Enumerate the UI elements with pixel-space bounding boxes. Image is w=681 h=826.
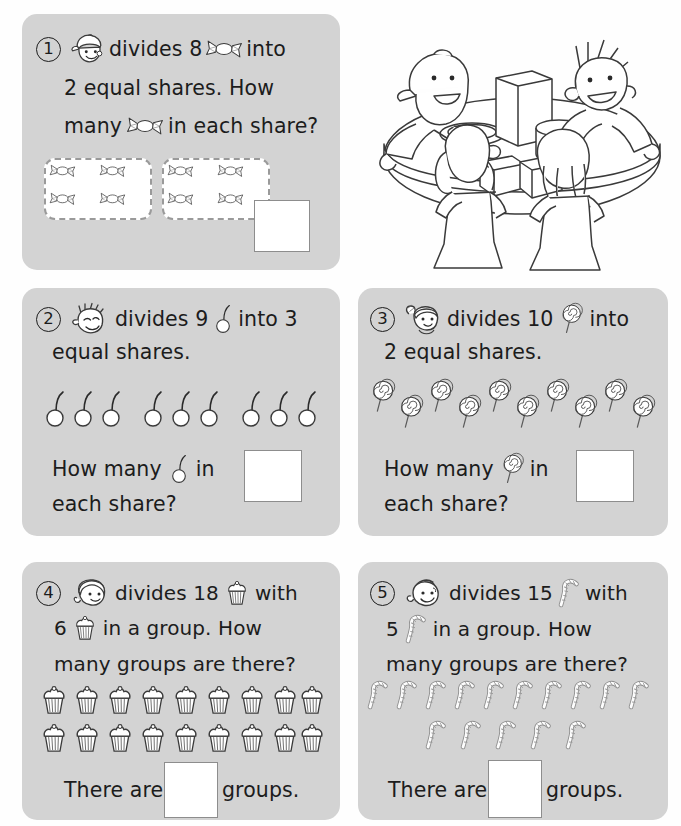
lollipop-icon (500, 454, 524, 484)
cupcake-icon (73, 614, 97, 642)
answer-box-5[interactable] (488, 760, 542, 818)
four-children-around-table-illustration (372, 16, 672, 274)
candy-group-1 (44, 158, 152, 220)
q5-text-a: divides 15 (449, 581, 553, 605)
candy-cane-icon (558, 578, 580, 608)
q3-question-line-2: each share? (384, 492, 509, 516)
q3-question-line: How many in (384, 454, 549, 484)
q4-text-a: divides 18 (115, 581, 219, 605)
q3-text-a: divides 10 (447, 307, 553, 331)
q2-text-b: into 3 (238, 307, 297, 331)
boy-round-face-icon (403, 576, 443, 610)
girl-with-ponytail-face-icon (403, 302, 441, 336)
q4-text-d: in a group. How (103, 616, 262, 640)
q1-line-3: many in each share? (64, 114, 318, 138)
candy-cane-icon (405, 614, 427, 644)
question-number-2: 2 (36, 307, 61, 332)
q3-line-2: 2 equal shares. (384, 340, 542, 364)
q2-text-a: divides 9 (115, 307, 208, 331)
q5-line-2: 5 in a group. How (386, 614, 592, 644)
q5-answer-prefix: There are (388, 778, 487, 802)
question-card-4: 4 divides 18 with 6 in a group. How many… (22, 562, 340, 820)
answer-box-2[interactable] (244, 450, 302, 502)
q2-question-line-2: each share? (52, 492, 177, 516)
q1-line-2: 2 equal shares. How (64, 76, 274, 100)
question-card-1: 1 divides 8 into 2 equal shares. How man… (22, 14, 340, 270)
question-number-4: 4 (36, 581, 61, 606)
question-number-5: 5 (370, 581, 395, 606)
worksheet-page: 1 divides 8 into 2 equal shares. How man… (0, 0, 681, 826)
question-card-2: 2 divides 9 into 3 equal shares. (22, 288, 340, 536)
girl-short-hair-face-icon (69, 576, 109, 610)
balloon-icon (168, 454, 190, 484)
balloon-icon (212, 304, 234, 334)
q5-answer-suffix: groups. (546, 778, 623, 802)
lollipop-icon (559, 304, 583, 334)
boy-with-cap-face-icon (69, 32, 109, 66)
q5-line-3: many groups are there? (386, 652, 628, 676)
candy-cane-grid (368, 680, 660, 766)
balloon-row (44, 386, 329, 434)
q3-text-b: into (589, 307, 629, 331)
answer-box-1[interactable] (254, 200, 310, 252)
question-card-3: 3 divides 10 into 2 equal shares. (358, 288, 668, 536)
q2-line-1: 2 divides 9 into 3 (36, 302, 298, 336)
q4-answer-prefix: There are (64, 778, 163, 802)
q1-text-b: into (246, 37, 286, 61)
q5-text-c: 5 (386, 617, 399, 641)
q5-line-1: 5 divides 15 with (370, 576, 628, 610)
question-card-5: 5 divides 15 with 5 in a group. How many… (358, 562, 668, 820)
answer-box-4[interactable] (164, 762, 218, 818)
cupcake-icon (225, 579, 249, 607)
q1-line-1: 1 divides 8 into (36, 32, 286, 66)
q5-text-d: in a group. How (433, 617, 592, 641)
wrapped-candy-icon (126, 114, 164, 138)
question-number-1: 1 (36, 37, 61, 62)
q1-text-c: many (64, 114, 122, 138)
q4-line-3: many groups are there? (54, 652, 296, 676)
q4-text-c: 6 (54, 616, 67, 640)
q3-line-1: 3 divides 10 into (370, 302, 629, 336)
wrapped-candy-icon (205, 37, 243, 61)
q4-line-1: 4 divides 18 with (36, 576, 298, 610)
lollipop-row (370, 380, 658, 456)
q2-line-2: equal shares. (52, 340, 191, 364)
q2-question-line: How many in (52, 454, 215, 484)
spiky-hair-boy-face-icon (69, 302, 107, 336)
q5-text-b: with (585, 581, 628, 605)
answer-box-3[interactable] (576, 450, 634, 502)
q3-text-c: How many (384, 457, 494, 481)
q4-line-2: 6 in a group. How (54, 614, 262, 642)
q3-text-d: in (530, 457, 549, 481)
q2-text-d: in (196, 457, 215, 481)
q1-text-d: in each share? (168, 114, 318, 138)
q4-answer-suffix: groups. (222, 778, 299, 802)
question-number-3: 3 (370, 307, 395, 332)
q4-text-b: with (255, 581, 298, 605)
cupcake-grid (40, 684, 330, 758)
q1-text-a: divides 8 (109, 37, 202, 61)
q2-text-c: How many (52, 457, 162, 481)
